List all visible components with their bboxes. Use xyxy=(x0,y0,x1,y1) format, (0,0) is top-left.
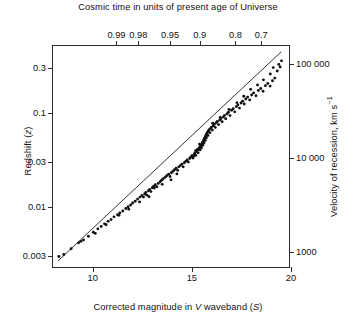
data-point xyxy=(134,200,137,203)
x2-tick-label: 0.99 xyxy=(107,30,125,40)
x-tick xyxy=(93,267,94,272)
data-point xyxy=(198,143,201,146)
data-point xyxy=(279,65,282,68)
data-point xyxy=(148,195,151,198)
data-point xyxy=(192,155,195,158)
data-point xyxy=(238,107,241,110)
data-point xyxy=(257,89,260,92)
data-point xyxy=(175,172,178,175)
data-point xyxy=(241,100,244,103)
data-point xyxy=(107,220,110,223)
data-point xyxy=(105,223,108,226)
data-point xyxy=(246,96,249,99)
scatter-canvas xyxy=(53,46,289,267)
data-point xyxy=(271,79,274,82)
data-point xyxy=(219,116,222,119)
y2-tick-label: 1000 xyxy=(296,247,317,257)
data-point xyxy=(205,136,208,139)
data-point xyxy=(217,123,220,126)
y-tick-label: 0.03 xyxy=(28,157,46,167)
data-point xyxy=(256,84,259,87)
data-point xyxy=(62,253,65,256)
data-point xyxy=(211,129,214,132)
data-point xyxy=(243,103,246,106)
data-point xyxy=(169,175,172,178)
data-point xyxy=(259,87,262,90)
data-point xyxy=(138,200,141,203)
data-point xyxy=(249,88,252,91)
y-tick-label: 0.3 xyxy=(33,63,46,73)
fit-line xyxy=(58,52,281,261)
data-point xyxy=(121,210,124,213)
x2-tick xyxy=(235,41,236,46)
x2-tick xyxy=(138,41,139,46)
data-point xyxy=(255,94,258,97)
y-tick-label: 0.003 xyxy=(23,251,46,261)
x2-tick-label: 0.95 xyxy=(161,30,179,40)
data-point xyxy=(200,146,203,149)
data-point xyxy=(229,114,232,117)
data-point xyxy=(277,63,280,66)
top-axis-title: Cosmic time in units of present age of U… xyxy=(0,2,356,12)
data-point xyxy=(118,211,121,214)
data-point xyxy=(262,78,265,81)
data-point xyxy=(209,131,212,134)
y2-tick xyxy=(289,64,294,65)
hubble-diagram-figure: Cosmic time in units of present age of U… xyxy=(0,0,356,315)
y-tick xyxy=(48,162,53,163)
x-tick xyxy=(291,267,292,272)
data-point xyxy=(113,215,116,218)
data-point xyxy=(96,227,99,230)
x2-tick-label: 0.9 xyxy=(193,30,206,40)
data-point xyxy=(227,111,230,114)
data-point xyxy=(228,108,231,111)
data-point xyxy=(194,149,197,152)
data-point xyxy=(187,161,190,164)
y2-tick-label: 100 000 xyxy=(296,59,330,69)
data-point xyxy=(131,202,134,205)
y-tick xyxy=(48,207,53,208)
data-point xyxy=(144,191,147,194)
x2-tick-label: 0.98 xyxy=(129,30,147,40)
x2-tick xyxy=(200,41,201,46)
x-tick-label: 10 xyxy=(87,273,97,283)
data-point xyxy=(224,117,227,120)
data-point xyxy=(207,134,210,137)
data-point xyxy=(136,198,139,201)
data-point xyxy=(272,66,275,69)
data-point xyxy=(153,187,156,190)
right-axis-title: Velocity of recession, km s−1 xyxy=(325,76,338,236)
data-point xyxy=(232,107,235,110)
data-point xyxy=(264,84,267,87)
data-point xyxy=(117,214,120,217)
y2-tick xyxy=(289,252,294,253)
data-point xyxy=(248,98,251,101)
data-point xyxy=(127,208,130,211)
data-point xyxy=(252,91,255,94)
x-tick-label: 15 xyxy=(187,273,197,283)
data-point xyxy=(242,95,245,98)
data-point xyxy=(203,141,206,144)
data-point xyxy=(211,122,214,125)
data-point xyxy=(266,82,269,85)
data-point xyxy=(197,151,200,154)
data-point xyxy=(221,120,224,123)
x2-tick xyxy=(170,41,171,46)
data-point xyxy=(273,77,276,80)
data-point xyxy=(150,190,153,193)
plot-area: 0.0030.010.030.10.3100010 000100 0001015… xyxy=(52,45,290,268)
data-point xyxy=(161,183,164,186)
data-point xyxy=(170,178,173,181)
data-point xyxy=(276,70,279,73)
data-point xyxy=(223,114,226,117)
data-point xyxy=(262,90,265,93)
data-point xyxy=(110,218,113,221)
bottom-axis-title: Corrected magnitude in V waveband (S) xyxy=(0,302,356,312)
data-point xyxy=(235,101,238,104)
y-tick-label: 0.1 xyxy=(33,108,46,118)
data-point xyxy=(82,238,85,241)
x2-tick-label: 0.7 xyxy=(255,30,268,40)
data-point xyxy=(142,196,145,199)
data-point xyxy=(57,255,60,258)
data-point xyxy=(176,169,179,172)
